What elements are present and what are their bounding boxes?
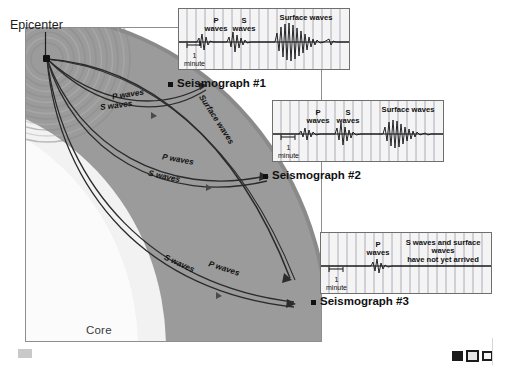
panel-2-scale-value: 1	[278, 144, 299, 152]
panel-2-scale: 1 minute	[278, 135, 299, 160]
footer-icon-group	[452, 348, 496, 363]
seismograph-panel-3: P waves S waves and surface waves have n…	[320, 232, 492, 294]
panel-2-p-label: P waves	[305, 109, 331, 126]
panel-2-surface-label: Surface waves	[373, 106, 443, 114]
page-edge-rule	[492, 338, 493, 365]
panel-3-not-arrived-label: S waves and surface waves have not yet a…	[395, 239, 491, 264]
panel-1-s-label: S waves	[231, 17, 257, 34]
panel-1-surface-label: Surface waves	[271, 14, 341, 22]
panel-3-scale-value: 1	[326, 276, 347, 284]
panel-2-scale-unit: minute	[278, 152, 299, 160]
seismograph-1-name: Seismograph #1	[177, 77, 266, 89]
epicenter-label: Epicenter	[10, 18, 63, 32]
panel-2-s-label: S waves	[335, 109, 361, 126]
core-label: Core	[86, 324, 112, 336]
scale-bar-icon	[327, 267, 347, 274]
earth-cross-section: Core Mantle	[25, 27, 322, 342]
square-icon	[452, 351, 463, 361]
seismic-ray-paths	[26, 28, 321, 341]
scale-bar-icon	[279, 135, 299, 142]
panel-1-scale-unit: minute	[184, 60, 205, 68]
footer-swatch	[18, 349, 32, 358]
scale-bar-icon	[185, 43, 205, 50]
panel-1-scale: 1 minute	[184, 43, 205, 68]
epicenter-dot	[43, 55, 50, 62]
panel-1-p-label: P waves	[203, 17, 229, 34]
panel-1-scale-value: 1	[184, 52, 205, 60]
panel-3-p-label: P waves	[365, 241, 391, 258]
seismograph-2-name: Seismograph #2	[272, 169, 361, 181]
seismograph-2-marker	[263, 174, 268, 179]
seismograph-panel-1: P waves S waves Surface waves 1 minute	[178, 8, 350, 70]
diagram-canvas: Core Mantle Epicenter P waves S waves Su…	[0, 0, 505, 365]
seismograph-3-marker	[311, 300, 316, 305]
seismograph-3-name: Seismograph #3	[320, 295, 409, 307]
panel-3-scale: 1 minute	[326, 267, 347, 292]
panel-3-scale-unit: minute	[326, 284, 347, 292]
seismograph-panel-2: P waves S waves Surface waves 1 minute	[272, 100, 444, 162]
seismograph-1-marker	[168, 82, 173, 87]
